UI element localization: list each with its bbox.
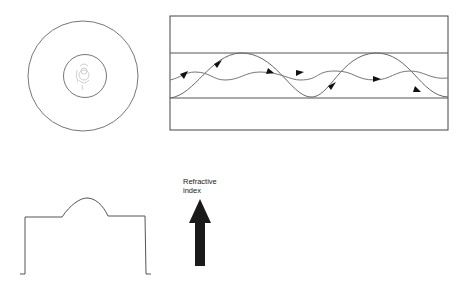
fiber-cross-section xyxy=(28,21,138,131)
index-profile xyxy=(20,198,151,274)
fiber-diagram xyxy=(0,0,468,286)
refractive-index-arrow xyxy=(189,199,211,266)
axis-label: Refractive index xyxy=(183,177,217,195)
axis-label-line2: index xyxy=(183,186,217,195)
ray-arrow-heads xyxy=(180,60,421,92)
fiber-side-view xyxy=(170,16,448,130)
axis-label-line1: Refractive xyxy=(183,177,217,186)
